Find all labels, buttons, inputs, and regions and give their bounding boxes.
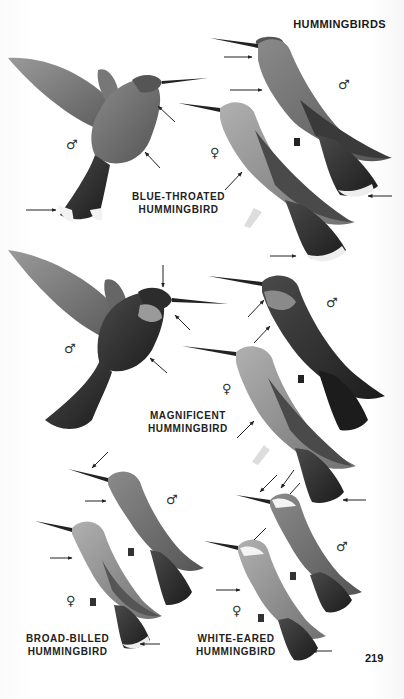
male-symbol: ♂ — [336, 540, 348, 553]
female-symbol: ♀ — [222, 382, 232, 395]
species-label-white-eared: WHITE-EARED HUMMINGBIRD — [196, 632, 276, 658]
male-symbol: ♂ — [326, 296, 338, 309]
male-symbol: ♂ — [338, 78, 350, 91]
magnificent-male-hovering-figure — [8, 250, 228, 429]
illustration-plate — [0, 0, 404, 699]
species-label-blue-throated: BLUE-THROATED HUMMINGBIRD — [132, 190, 225, 216]
page-number: 219 — [365, 652, 383, 664]
male-symbol: ♂ — [166, 493, 178, 506]
male-symbol: ♂ — [64, 342, 76, 355]
female-symbol: ♀ — [66, 594, 76, 607]
female-symbol: ♀ — [210, 146, 220, 159]
broad-billed-female-perched-figure — [35, 521, 162, 649]
species-label-broad-billed: BROAD-BILLED HUMMINGBIRD — [26, 632, 109, 658]
female-symbol: ♀ — [232, 604, 242, 617]
male-symbol: ♂ — [66, 138, 78, 151]
species-label-magnificent: MAGNIFICENT HUMMINGBIRD — [148, 409, 228, 435]
field-guide-page: HUMMINGBIRDS — [0, 0, 404, 699]
